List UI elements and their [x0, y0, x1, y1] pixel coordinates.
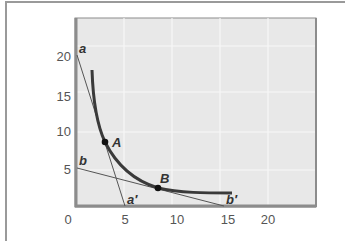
y-tick-15: 15: [57, 89, 71, 104]
x-tick-10: 10: [170, 212, 184, 227]
line-label-b: b: [79, 153, 87, 168]
x-tick-5: 5: [121, 212, 128, 227]
y-tick-10: 10: [57, 124, 71, 139]
point-b-label: B: [160, 171, 169, 186]
y-tick-20: 20: [57, 49, 71, 64]
y-tick-5: 5: [64, 162, 71, 177]
point-a-label: A: [111, 135, 121, 150]
line-label-b-prime: b′: [226, 192, 238, 207]
point-a-marker: [102, 139, 109, 146]
x-tick-20: 20: [261, 212, 275, 227]
x-tick-0: 0: [64, 212, 71, 227]
line-label-a-prime: a′: [127, 192, 138, 207]
x-tick-15: 15: [221, 212, 235, 227]
line-label-a: a: [79, 41, 86, 56]
